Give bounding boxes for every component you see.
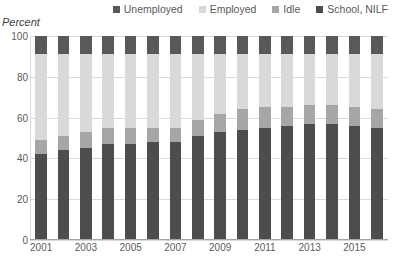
bar-2016[interactable] (371, 36, 383, 240)
bar-segment-employed (58, 54, 70, 136)
bar-segment-school-nilf (371, 128, 383, 240)
bar-segment-school-nilf (102, 144, 114, 240)
bar-segment-idle (371, 109, 383, 127)
bar-segment-employed (281, 54, 293, 107)
bar-segment-employed (147, 54, 159, 127)
bar-segment-school-nilf (192, 136, 204, 240)
bar-segment-idle (237, 109, 249, 129)
bar-segment-employed (237, 54, 249, 109)
bar-segment-employed (259, 54, 271, 107)
bar-segment-school-nilf (259, 128, 271, 240)
x-axis-tick-label: 2009 (209, 242, 231, 253)
bar-segment-idle (80, 132, 92, 148)
x-axis-tick-label: 2005 (120, 242, 142, 253)
legend-item-label: Employed (210, 4, 257, 15)
y-axis-line (30, 36, 31, 240)
x-axis-tick-label: 2001 (30, 242, 52, 253)
bar-segment-unemployed (80, 36, 92, 54)
bar-segment-employed (192, 54, 204, 119)
bar-segment-employed (80, 54, 92, 132)
bar-2006[interactable] (147, 36, 159, 240)
legend-swatch-icon (113, 6, 120, 13)
y-axis-tick-label: 80 (2, 71, 28, 82)
bar-2013[interactable] (304, 36, 316, 240)
bar-segment-unemployed (237, 36, 249, 54)
bar-segment-school-nilf (349, 126, 361, 240)
bar-2009[interactable] (214, 36, 226, 240)
bar-2007[interactable] (170, 36, 182, 240)
bar-segment-unemployed (281, 36, 293, 54)
x-axis-tick-label: 2007 (164, 242, 186, 253)
plot-area (30, 36, 388, 240)
bar-2004[interactable] (102, 36, 114, 240)
legend-item-label: School, NILF (327, 4, 388, 15)
bar-segment-employed (326, 54, 338, 105)
bar-2005[interactable] (125, 36, 137, 240)
bar-segment-idle (58, 136, 70, 150)
bar-segment-school-nilf (147, 142, 159, 240)
bar-segment-idle (326, 105, 338, 123)
bar-segment-idle (281, 107, 293, 125)
bar-segment-school-nilf (237, 130, 249, 240)
bar-2012[interactable] (281, 36, 293, 240)
y-axis-tick-label: 60 (2, 112, 28, 123)
bar-segment-unemployed (304, 36, 316, 54)
y-axis-tick-labels: 020406080100 (0, 0, 28, 266)
x-axis-tick-label: 2013 (299, 242, 321, 253)
bar-segment-idle (147, 128, 159, 142)
bar-2001[interactable] (35, 36, 47, 240)
bar-segment-unemployed (147, 36, 159, 54)
bar-segment-employed (102, 54, 114, 127)
legend-item-unemployed[interactable]: Unemployed (113, 4, 183, 15)
bar-segment-school-nilf (326, 124, 338, 240)
bar-2010[interactable] (237, 36, 249, 240)
bar-2015[interactable] (349, 36, 361, 240)
bar-segment-idle (35, 140, 47, 154)
bar-segment-unemployed (58, 36, 70, 54)
legend-item-school-nilf[interactable]: School, NILF (316, 4, 388, 15)
bar-segment-employed (35, 54, 47, 140)
bar-segment-idle (214, 114, 226, 132)
x-axis-tick-labels: 20012003200520072009201120132015 (30, 242, 388, 262)
bar-segment-unemployed (192, 36, 204, 54)
bar-segment-school-nilf (80, 148, 92, 240)
bar-segment-employed (304, 54, 316, 105)
legend-item-employed[interactable]: Employed (199, 4, 257, 15)
bar-segment-employed (349, 54, 361, 107)
y-axis-tick-label: 100 (2, 31, 28, 42)
bar-segment-unemployed (214, 36, 226, 54)
legend-swatch-icon (272, 6, 279, 13)
bar-segment-school-nilf (304, 124, 316, 240)
bar-segment-school-nilf (35, 154, 47, 240)
bar-segment-school-nilf (125, 144, 137, 240)
bar-segment-unemployed (259, 36, 271, 54)
bar-segment-employed (214, 54, 226, 113)
bar-segment-unemployed (371, 36, 383, 54)
bar-segment-employed (170, 54, 182, 127)
chart-legend: UnemployedEmployedIdleSchool, NILF (0, 0, 394, 18)
y-axis-tick-label: 0 (2, 235, 28, 246)
legend-item-label: Idle (283, 4, 300, 15)
bar-segment-idle (125, 128, 137, 144)
x-axis-tick-label: 2003 (75, 242, 97, 253)
bar-segment-employed (125, 54, 137, 127)
gridline (30, 240, 388, 241)
x-axis-tick-label: 2015 (343, 242, 365, 253)
bar-2014[interactable] (326, 36, 338, 240)
bar-2002[interactable] (58, 36, 70, 240)
bar-segment-unemployed (35, 36, 47, 54)
bar-segment-school-nilf (170, 142, 182, 240)
bar-segment-school-nilf (58, 150, 70, 240)
bar-2011[interactable] (259, 36, 271, 240)
x-axis-line (30, 239, 388, 240)
bar-segment-unemployed (326, 36, 338, 54)
bar-2008[interactable] (192, 36, 204, 240)
bar-segment-unemployed (170, 36, 182, 54)
bar-segment-idle (349, 107, 361, 125)
x-axis-tick-label: 2011 (254, 242, 276, 253)
y-axis-tick-label: 20 (2, 194, 28, 205)
legend-swatch-icon (316, 6, 323, 13)
bar-2003[interactable] (80, 36, 92, 240)
legend-item-idle[interactable]: Idle (272, 4, 300, 15)
bar-segment-school-nilf (214, 132, 226, 240)
